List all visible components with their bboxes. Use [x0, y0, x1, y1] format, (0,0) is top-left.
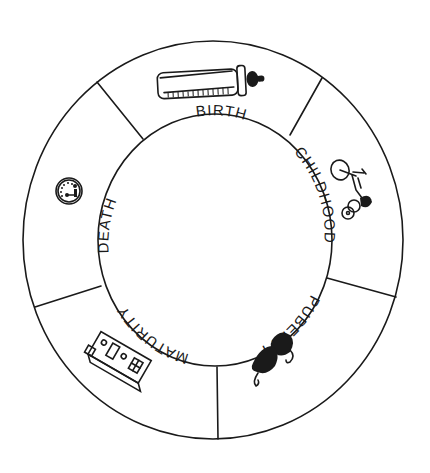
outer-ring	[23, 41, 403, 439]
divider-birth-childhood	[290, 78, 322, 135]
divider-birth-death	[97, 82, 143, 139]
life-cycle-diagram: BIRTH CHILDHOOD PUBERTY MATURITY DEATH	[0, 0, 430, 473]
stage-label-birth: BIRTH	[195, 101, 250, 123]
stage-label-childhood: CHILDHOOD	[291, 143, 338, 244]
divider-puberty-maturity	[217, 367, 218, 439]
gauge-icon	[56, 178, 82, 204]
divider-childhood-puberty	[327, 278, 396, 297]
baby-bottle-icon	[157, 64, 265, 100]
divider-maturity-death	[35, 286, 101, 307]
stage-label-death: DEATH	[94, 195, 119, 254]
house-icon	[82, 330, 157, 392]
bra-icon	[252, 332, 293, 386]
